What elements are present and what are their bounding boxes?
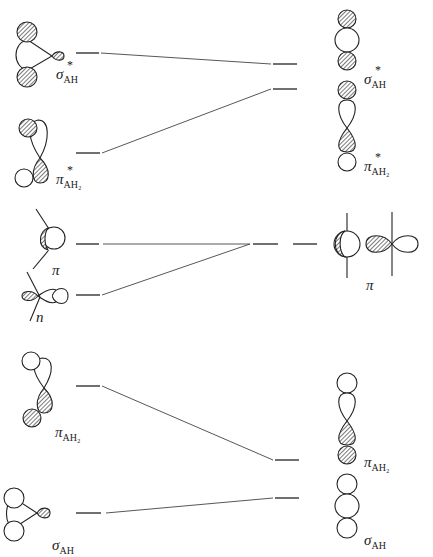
orbital-sigma-ah-right [335, 474, 359, 538]
correlation-lines [101, 53, 273, 513]
connector-pi-ah2 [102, 386, 273, 460]
left-energy-levels [76, 53, 101, 513]
orbital-pi-right [334, 212, 418, 278]
orbital-sigma-ah-left [4, 488, 50, 541]
connector-n [102, 244, 250, 295]
orbital-pi-star-ah2-right [338, 81, 356, 171]
mo-correlation-diagram [0, 0, 433, 557]
orbital-pi-ah2-left [22, 352, 52, 427]
connector-sigma-star [101, 53, 271, 64]
connector-pi-star [102, 89, 271, 153]
right-energy-levels [253, 64, 317, 498]
orbital-sigma-star-ah-left [16, 22, 64, 87]
orbital-pi-star-ah2-left [15, 119, 48, 187]
orbital-pi-ah2-right [337, 373, 357, 464]
orbital-n-left [22, 272, 68, 321]
orbital-pi-left [33, 209, 65, 269]
orbital-sigma-star-ah-right [335, 10, 359, 70]
connector-sigma-ah [106, 498, 273, 513]
